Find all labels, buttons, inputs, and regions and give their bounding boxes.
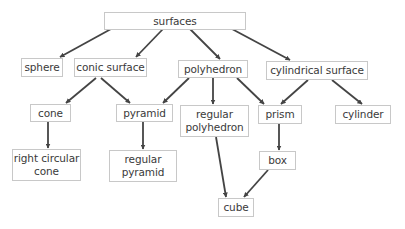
node-cylindrical-surface: cylindrical surface — [266, 61, 368, 80]
arrow-conic-surface-to-cone — [66, 78, 96, 103]
arrow-surfaces-to-conic-surface — [136, 29, 163, 57]
arrow-surfaces-to-cylindrical-surface — [232, 29, 290, 60]
node-cone: cone — [30, 104, 71, 122]
arrow-cylindrical-surface-to-prism — [281, 80, 308, 104]
node-cylinder: cylinder — [335, 105, 391, 124]
node-conic-surface: conic surface — [74, 58, 147, 77]
arrow-regular-polyhedron-to-cube — [216, 137, 226, 197]
node-pyramid: pyramid — [116, 104, 173, 122]
arrow-surfaces-to-sphere — [60, 29, 111, 57]
node-polyhedron: polyhedron — [178, 60, 248, 78]
arrow-conic-surface-to-pyramid — [101, 78, 130, 103]
arrow-cylindrical-surface-to-cylinder — [332, 80, 362, 104]
arrow-polyhedron-to-prism — [237, 78, 264, 104]
arrow-polyhedron-to-pyramid — [163, 78, 189, 103]
node-box: box — [259, 151, 296, 170]
arrow-box-to-cube — [244, 170, 268, 197]
node-regular-pyramid: regular pyramid — [109, 150, 177, 182]
node-right-circular-cone: right circular cone — [12, 149, 81, 181]
node-prism: prism — [258, 105, 302, 124]
node-sphere: sphere — [21, 58, 63, 77]
arrow-surfaces-to-polyhedron — [190, 29, 220, 59]
node-surfaces: surfaces — [104, 12, 246, 30]
node-cube: cube — [218, 198, 254, 217]
node-regular-polyhedron: regular polyhedron — [180, 105, 249, 137]
